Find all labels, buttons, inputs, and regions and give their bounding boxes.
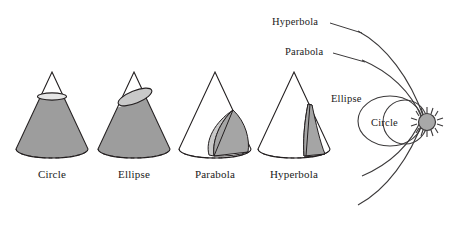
cone-caption-parabola: Parabola — [195, 168, 235, 180]
orbit-label-hyperbola: Hyperbola — [272, 16, 318, 27]
cone-parabola-group — [179, 72, 251, 158]
cone-caption-row: Circle Ellipse Parabola Hyperbola — [0, 168, 330, 184]
cone-hyperbola-group — [258, 72, 330, 158]
cone-circle-above-cut-mask — [10, 60, 96, 96]
cone-ellipse-group — [92, 56, 178, 158]
cone-circle-group — [10, 60, 96, 158]
leader-line-parabola — [333, 53, 365, 62]
cone-caption-hyperbola: Hyperbola — [270, 168, 318, 180]
cone-circle-cut-ellipse — [38, 93, 67, 100]
orbit-label-ellipse: Ellipse — [331, 93, 362, 104]
cone-caption-circle: Circle — [38, 168, 66, 180]
conic-sections-figure: Circle Ellipse Parabola Hyperbola Hyperb… — [0, 0, 465, 235]
sun-disc — [419, 114, 436, 131]
cone-caption-ellipse: Ellipse — [118, 168, 150, 180]
sun-icon — [411, 107, 443, 137]
orbit-label-circle: Circle — [371, 117, 398, 128]
cone-ellipse-shading — [92, 56, 178, 158]
orbit-label-parabola: Parabola — [285, 46, 323, 57]
orbit-diagram — [330, 23, 443, 205]
leader-line-hyperbola — [330, 23, 362, 33]
